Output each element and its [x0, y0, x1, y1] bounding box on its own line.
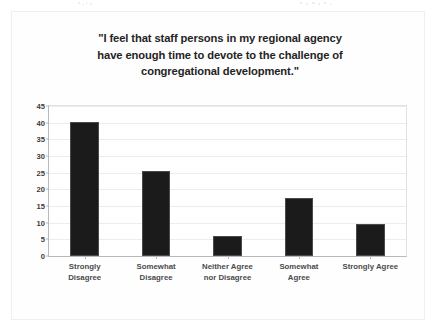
- gridline: [49, 223, 406, 224]
- x-axis-tick-mark: [156, 256, 157, 259]
- x-axis-tick-mark: [370, 256, 371, 259]
- x-axis-tick-label: StronglyDisagree: [68, 262, 101, 283]
- x-axis-tick-label: Neither Agreenor Disagree: [202, 262, 253, 283]
- y-axis-tick-label: 45: [37, 102, 45, 111]
- y-axis-tick-mark: [46, 222, 49, 223]
- x-axis-tick-label-line: Neither Agree: [202, 262, 253, 273]
- x-axis-tick-label: Strongly Agree: [342, 262, 398, 273]
- x-axis-tick-mark: [228, 256, 229, 259]
- bar: [356, 224, 385, 256]
- y-axis-tick-mark: [46, 189, 49, 190]
- y-axis-tick-label: 40: [37, 118, 45, 127]
- y-axis-tick-label: 10: [37, 218, 45, 227]
- y-axis-tick-mark: [46, 156, 49, 157]
- y-axis-tick-mark: [46, 256, 49, 257]
- y-axis-tick-mark: [46, 206, 49, 207]
- bar: [285, 198, 314, 256]
- gridline: [49, 106, 406, 107]
- y-axis-tick-label: 0: [41, 252, 45, 261]
- y-axis-tick-label: 20: [37, 185, 45, 194]
- y-axis-tick-mark: [46, 122, 49, 123]
- x-axis-tick-label: SomewhatAgree: [279, 262, 318, 283]
- x-axis-tick-label-line: Disagree: [137, 273, 176, 284]
- gridline: [49, 173, 406, 174]
- y-axis-tick-label: 30: [37, 152, 45, 161]
- plot-area: 051015202530354045 StronglyDisagreeSomew…: [48, 105, 407, 257]
- y-axis-tick-mark: [46, 139, 49, 140]
- gridline: [49, 139, 406, 140]
- y-axis-tick-label: 5: [41, 235, 45, 244]
- y-axis-tick-label: 25: [37, 168, 45, 177]
- gridline: [49, 189, 406, 190]
- x-axis-tick-label-line: nor Disagree: [202, 273, 253, 284]
- y-axis-tick-mark: [46, 106, 49, 107]
- bar: [70, 122, 99, 256]
- y-axis-tick-mark: [46, 172, 49, 173]
- x-axis-tick-label: SomewhatDisagree: [137, 262, 176, 283]
- bar: [213, 236, 242, 256]
- y-axis-tick-label: 15: [37, 202, 45, 211]
- gridline: [49, 206, 406, 207]
- gridline: [49, 156, 406, 157]
- chart-plot-wrapper: 051015202530354045 StronglyDisagreeSomew…: [0, 0, 439, 334]
- x-axis-tick-label-line: Somewhat: [279, 262, 318, 273]
- x-axis-tick-label-line: Agree: [279, 273, 318, 284]
- x-axis-tick-label-line: Strongly: [68, 262, 101, 273]
- x-axis-tick-mark: [85, 256, 86, 259]
- bar: [142, 171, 171, 256]
- y-axis-tick-label: 35: [37, 135, 45, 144]
- gridline: [49, 123, 406, 124]
- x-axis-tick-mark: [299, 256, 300, 259]
- y-axis-tick-mark: [46, 239, 49, 240]
- x-axis-tick-label-line: Somewhat: [137, 262, 176, 273]
- x-axis-tick-label-line: Strongly Agree: [342, 262, 398, 273]
- x-axis-tick-label-line: Disagree: [68, 273, 101, 284]
